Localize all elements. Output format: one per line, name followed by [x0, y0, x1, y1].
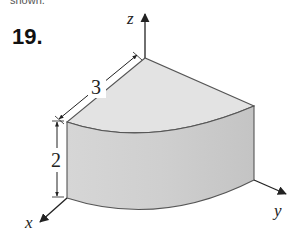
height-dimension-label: 2 [51, 149, 61, 171]
radius-dimension-label: 3 [91, 76, 101, 98]
x-axis [40, 198, 67, 222]
radius-tick-top [133, 52, 142, 60]
y-axis-label: y [272, 201, 282, 220]
radius-tick-bottom [55, 116, 64, 124]
x-axis-label: x [24, 213, 33, 232]
z-axis-label: z [126, 9, 134, 28]
quarter-cylinder-figure: z x y 3 2 [0, 0, 297, 242]
y-axis [254, 180, 286, 194]
